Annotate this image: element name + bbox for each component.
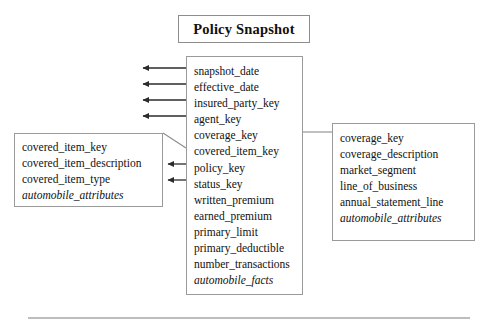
diagram-canvas: Policy Snapshot snapshot_date effective_… <box>0 0 492 329</box>
entity-box-coverage-dimension[interactable]: coverage_key coverage_description market… <box>332 123 475 241</box>
attribute-row: snapshot_date <box>187 63 302 79</box>
attribute-row: number_transactions <box>187 256 302 272</box>
entity-box-covered-item-dimension[interactable]: covered_item_key covered_item_descriptio… <box>14 133 163 207</box>
attribute-row: agent_key <box>187 111 302 127</box>
bottom-divider <box>28 317 470 319</box>
attribute-row: coverage_key <box>187 127 302 143</box>
attribute-row: automobile_facts <box>187 272 302 288</box>
attribute-row: market_segment <box>333 162 474 178</box>
attribute-row: automobile_attributes <box>333 210 474 226</box>
attribute-row: primary_deductible <box>187 240 302 256</box>
attribute-row: insured_party_key <box>187 95 302 111</box>
attribute-row: covered_item_key <box>187 143 302 159</box>
attribute-row: annual_statement_line <box>333 194 474 210</box>
diagram-title: Policy Snapshot <box>193 21 295 38</box>
attribute-row: covered_item_type <box>15 171 162 187</box>
attribute-row: coverage_key <box>333 130 474 146</box>
attribute-row: primary_limit <box>187 224 302 240</box>
attribute-row: earned_premium <box>187 208 302 224</box>
entity-box-policy-snapshot-fact[interactable]: snapshot_date effective_date insured_par… <box>186 56 303 295</box>
attribute-row: line_of_business <box>333 178 474 194</box>
attribute-row: effective_date <box>187 79 302 95</box>
attribute-row: status_key <box>187 176 302 192</box>
diagram-title-box: Policy Snapshot <box>178 15 310 43</box>
attribute-row: covered_item_description <box>15 155 162 171</box>
attribute-row: coverage_description <box>333 146 474 162</box>
connector-covered-item-dimension <box>163 133 186 148</box>
attribute-row: written_premium <box>187 192 302 208</box>
attribute-row: covered_item_key <box>15 139 162 155</box>
attribute-row: automobile_attributes <box>15 187 162 203</box>
attribute-row: policy_key <box>187 160 302 176</box>
